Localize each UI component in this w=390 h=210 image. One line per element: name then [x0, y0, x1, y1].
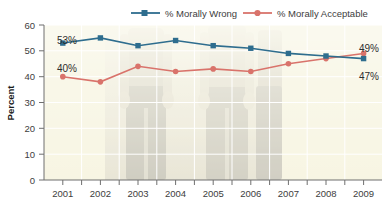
- line-chart: 60 50 40 30 20 10 0 Percent 2001 2002 20…: [0, 0, 390, 210]
- data-point: [98, 35, 103, 40]
- y-axis-ticks: [39, 25, 44, 180]
- annotation-red-end: 49%: [359, 43, 379, 54]
- data-point: [60, 74, 66, 80]
- y-tick-0: 0: [30, 175, 35, 186]
- data-point: [286, 51, 291, 56]
- x-tick-2003: 2003: [127, 188, 148, 199]
- data-point: [173, 69, 179, 75]
- x-tick-2009: 2009: [353, 188, 374, 199]
- annotation-red-start: 40%: [57, 63, 77, 74]
- y-tick-40: 40: [24, 71, 35, 82]
- legend-item-morally-wrong[interactable]: % Morally Wrong: [131, 8, 237, 19]
- data-point: [248, 46, 253, 51]
- x-tick-2005: 2005: [203, 188, 224, 199]
- y-tick-30: 30: [24, 97, 35, 108]
- legend-label-morally-wrong: % Morally Wrong: [165, 8, 237, 19]
- legend-item-morally-acceptable[interactable]: % Morally Acceptable: [243, 8, 368, 19]
- y-tick-50: 50: [24, 45, 35, 56]
- data-point: [323, 53, 328, 58]
- x-tick-2006: 2006: [240, 188, 261, 199]
- y-axis-title: Percent: [5, 85, 16, 121]
- annotation-blue-end: 47%: [359, 71, 379, 82]
- data-point: [248, 69, 254, 75]
- data-point: [211, 43, 216, 48]
- chart-legend: % Morally Wrong % Morally Acceptable: [131, 8, 368, 19]
- data-point: [135, 64, 141, 70]
- y-tick-10: 10: [24, 149, 35, 160]
- annotation-blue-start: 53%: [57, 35, 77, 46]
- chart-container: 60 50 40 30 20 10 0 Percent 2001 2002 20…: [0, 0, 390, 210]
- legend-label-morally-acceptable: % Morally Acceptable: [277, 8, 368, 19]
- x-tick-2001: 2001: [52, 188, 73, 199]
- x-tick-2008: 2008: [315, 188, 336, 199]
- legend-marker-circle-icon: [254, 10, 260, 16]
- x-tick-2002: 2002: [90, 188, 111, 199]
- x-tick-2007: 2007: [278, 188, 299, 199]
- data-point: [361, 56, 366, 61]
- x-tick-2004: 2004: [165, 188, 186, 199]
- data-point: [210, 66, 216, 72]
- legend-marker-square-icon: [142, 10, 148, 16]
- y-tick-20: 20: [24, 123, 35, 134]
- y-tick-60: 60: [24, 20, 35, 31]
- x-axis-ticks: [63, 180, 364, 185]
- data-point: [286, 61, 292, 67]
- data-point: [98, 79, 104, 85]
- data-point: [135, 43, 140, 48]
- data-point: [173, 38, 178, 43]
